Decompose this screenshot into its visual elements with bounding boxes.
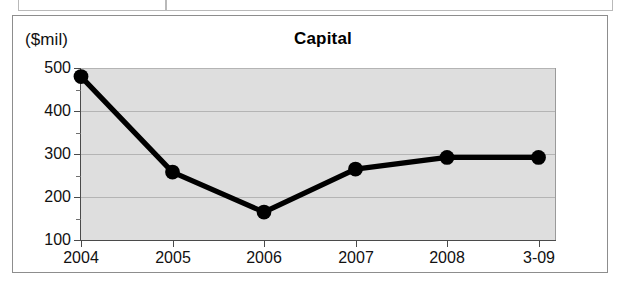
data-point-3-09 <box>531 150 546 165</box>
chart-card: ($mil) Capital 100200300400500 200420052… <box>12 15 608 273</box>
top-table-fragment <box>0 0 621 12</box>
data-point-2004 <box>74 69 89 84</box>
table-cell-left <box>18 0 166 11</box>
chart-figure: ($mil) Capital 100200300400500 200420052… <box>13 16 607 272</box>
series-line <box>81 77 539 213</box>
data-point-2008 <box>440 150 455 165</box>
data-series-capital <box>13 16 609 274</box>
data-point-2005 <box>165 165 180 180</box>
table-cell-right <box>166 0 613 11</box>
data-point-2007 <box>348 162 363 177</box>
data-point-2006 <box>257 205 272 220</box>
